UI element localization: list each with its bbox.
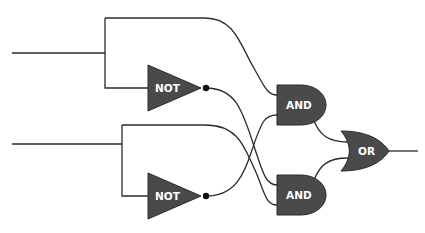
inverter-bubble-icon (203, 85, 209, 91)
not-gate-top: NOT (148, 65, 209, 111)
not-gate-bottom: NOT (148, 173, 209, 219)
logic-circuit-diagram: NOT NOT AND AND OR (0, 0, 425, 233)
input-b-wires (12, 125, 277, 205)
not-gate-top-label: NOT (155, 82, 181, 94)
not-gate-bottom-label: NOT (155, 190, 181, 202)
and-gate-top: AND (277, 85, 326, 125)
and-gate-top-label: AND (286, 99, 312, 111)
and-gate-bottom: AND (277, 175, 326, 215)
input-a-wires (12, 18, 277, 95)
inverter-bubble-icon (203, 193, 209, 199)
or-gate-label: OR (358, 145, 375, 157)
and-gate-bottom-label: AND (286, 189, 312, 201)
crossed-wires (206, 88, 277, 196)
or-gate: OR (341, 131, 389, 171)
